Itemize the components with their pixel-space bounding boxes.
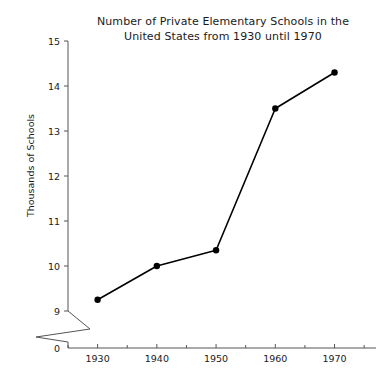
plot-area: 91011121314150 19301940195019601970 (0, 0, 384, 375)
x-tick-label: 1960 (263, 353, 287, 364)
x-tick-label: 1930 (86, 353, 110, 364)
data-point-marker (331, 69, 337, 75)
x-tick-label: 1940 (145, 353, 169, 364)
series-line (98, 73, 335, 300)
data-series (94, 69, 337, 303)
y-tick-label: 15 (48, 36, 60, 47)
y-origin-label: 0 (54, 343, 60, 354)
x-axis-ticks: 19301940195019601970 (68, 344, 364, 364)
x-tick-label: 1950 (204, 353, 228, 364)
y-tick-label: 12 (48, 171, 60, 182)
chart-container: Number of Private Elementary Schools in … (0, 0, 384, 375)
y-tick-label: 10 (48, 261, 60, 272)
y-tick-label: 11 (48, 216, 60, 227)
data-point-marker (213, 247, 219, 253)
data-point-marker (154, 263, 160, 269)
data-point-marker (94, 297, 100, 303)
x-tick-label: 1970 (322, 353, 346, 364)
y-axis-ticks: 91011121314150 (48, 36, 68, 354)
y-tick-label: 14 (48, 81, 60, 92)
data-point-marker (272, 105, 278, 111)
y-tick-label: 13 (48, 126, 60, 137)
y-tick-label: 9 (54, 306, 60, 317)
axis-break-icon (36, 311, 90, 348)
